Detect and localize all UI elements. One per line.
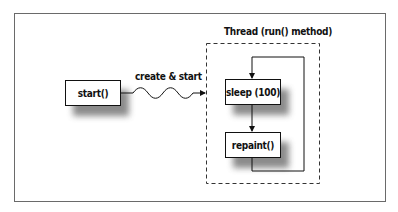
repaint-node-label: repaint() (232, 140, 274, 151)
thread-group-label: Thread (run() method) (224, 26, 332, 37)
start-node: start() (65, 80, 121, 106)
sleep-node: sleep (100) (225, 79, 281, 105)
create-start-edge (120, 88, 205, 99)
start-node-label: start() (78, 88, 109, 99)
repaint-node: repaint() (225, 132, 281, 158)
create-start-label: create & start (135, 71, 202, 82)
thread-group-boundary (207, 44, 320, 184)
sleep-node-label: sleep (100) (226, 87, 280, 98)
diagram-connectors (0, 0, 398, 212)
